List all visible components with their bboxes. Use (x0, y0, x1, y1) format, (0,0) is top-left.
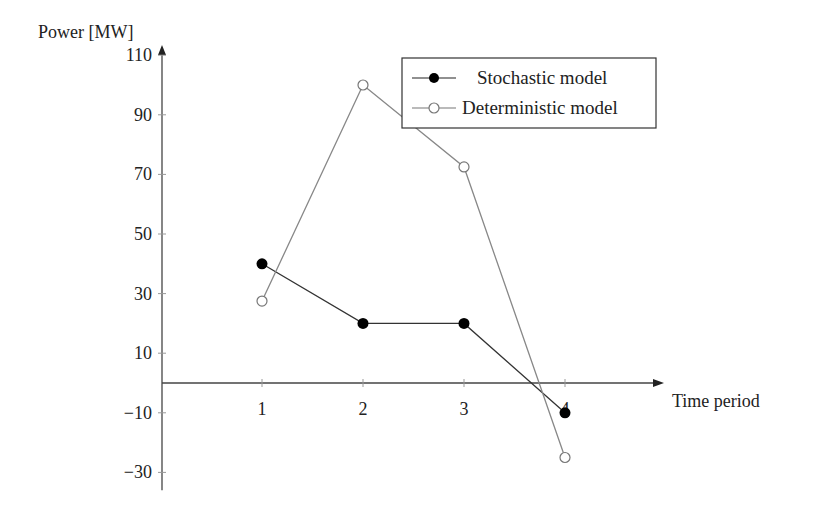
series-line-stochastic-model (262, 264, 565, 413)
legend-marker-stochastic (429, 73, 439, 83)
series-group (257, 80, 571, 463)
x-axis-arrow (653, 379, 664, 387)
legend-marker-deterministic (429, 103, 439, 113)
legend-label-deterministic: Deterministic model (462, 97, 618, 118)
y-axis-label: Power [MW] (38, 22, 133, 42)
data-point-stochastic-model (560, 407, 571, 418)
data-point-deterministic-model (358, 80, 368, 90)
data-point-deterministic-model (560, 453, 570, 463)
y-tick-label: 30 (134, 284, 152, 304)
y-axis-arrow (158, 45, 166, 55)
x-tick-label: 3 (460, 399, 469, 419)
legend-label-stochastic: Stochastic model (477, 67, 607, 88)
line-chart: 1109070503010−10−301234 Power [MW] Time … (0, 0, 814, 512)
y-tick-label: 70 (134, 164, 152, 184)
data-point-deterministic-model (257, 296, 267, 306)
y-tick-label: 10 (134, 343, 152, 363)
y-tick-label: 110 (126, 45, 152, 65)
x-axis-label: Time period (672, 391, 760, 411)
data-point-stochastic-model (459, 318, 470, 329)
x-tick-label: 2 (359, 399, 368, 419)
y-tick-label: −10 (124, 403, 152, 423)
y-tick-label: −30 (124, 462, 152, 482)
data-point-deterministic-model (459, 162, 469, 172)
y-tick-label: 90 (134, 105, 152, 125)
y-tick-label: 50 (134, 224, 152, 244)
series-line-deterministic-model (262, 85, 565, 458)
data-point-stochastic-model (257, 258, 268, 269)
legend: Stochastic model Deterministic model (402, 58, 656, 128)
data-point-stochastic-model (358, 318, 369, 329)
x-tick-label: 1 (258, 399, 267, 419)
